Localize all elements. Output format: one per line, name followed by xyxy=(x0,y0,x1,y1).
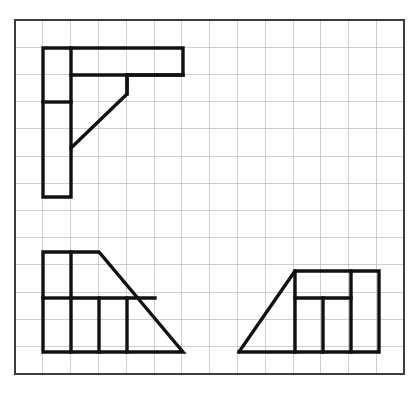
technical-drawing-canvas xyxy=(0,0,412,394)
orthographic-drawing-svg xyxy=(0,0,412,394)
